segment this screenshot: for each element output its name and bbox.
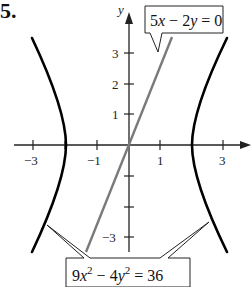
x-tick-label: 1 [157,153,164,168]
line-equation-label: 5x − 2y = 0 [150,12,222,30]
y-axis-arrow-icon [125,12,133,24]
y-tick-label: 2 [112,77,119,92]
hyperbola-equation-callout: 9x2 − 4y2 = 36 [47,222,209,287]
line-equation-callout: 5x − 2y = 0 [145,6,223,52]
x-axis-arrow-icon [240,141,251,149]
y-tick-label: 3 [112,46,119,61]
x-tick-label: −3 [24,153,38,168]
x-tick-label: 3 [219,153,226,168]
y-tick-label: 1 [112,107,119,122]
x-tick-label: −1 [87,153,101,168]
y-axis: y 3 2 1 −3 [102,2,134,252]
y-axis-label: y [116,2,124,17]
hyperbola-equation-label: 9x2 − 4y2 = 36 [72,264,163,285]
y-tick-label: −3 [102,230,116,245]
hyperbola-line-graph: −3 −1 1 3 y 3 2 1 −3 5x − 2y = 0 9x2 − 4… [0,0,251,287]
x-axis: −3 −1 1 3 [14,140,251,168]
